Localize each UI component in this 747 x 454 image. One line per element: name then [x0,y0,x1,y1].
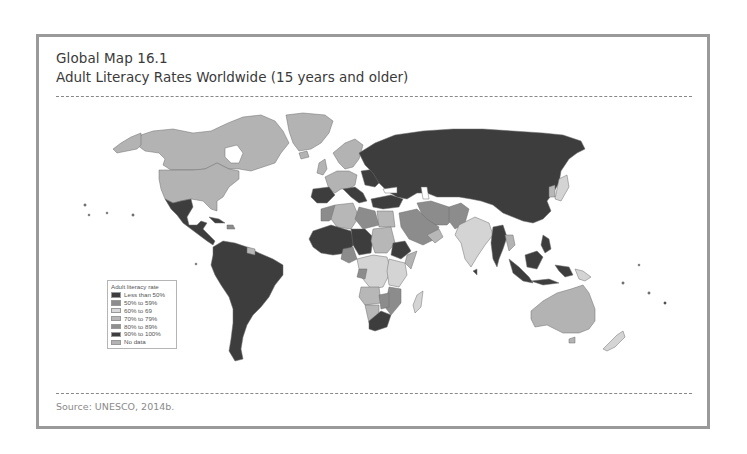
region-madagascar [413,291,423,313]
region-new-zealand [603,331,625,351]
region-india [455,217,493,267]
region-alaska [113,133,141,153]
region-east-africa [387,259,407,287]
region-angola [359,287,381,305]
legend-item: No data [111,338,173,346]
region-philippines [541,235,551,253]
region-nigeria [341,247,357,263]
region-canada [137,115,289,171]
legend-swatch-icon [111,292,121,298]
region-greenland [286,113,333,151]
legend-item: Less than 50% [111,291,173,299]
legend-swatch-icon [111,340,121,346]
region-mexico [165,199,215,245]
legend-item: 70% to 79% [111,315,173,323]
map-legend: Adult literacy rate Less than 50% 50% to… [107,280,177,349]
region-uk [317,159,327,175]
figure-frame: Global Map 16.1 Adult Literacy Rates Wor… [36,34,710,429]
region-algeria [331,203,359,229]
region-libya [355,207,379,229]
legend-item: 60% to 69 [111,307,173,315]
region-south-america [211,241,283,361]
legend-swatch-icon [111,332,121,338]
source-note: Source: UNESCO, 2014b. [56,401,174,412]
region-italy-balkans [343,187,367,203]
region-sudan [371,227,395,253]
world-map [39,37,707,426]
legend-item: 80% to 89% [111,323,173,331]
region-scandinavia [333,139,363,169]
legend-swatch-icon [111,316,121,322]
region-egypt [377,211,395,227]
region-russia-asia [359,129,585,223]
legend-title: Adult literacy rate [111,283,173,291]
source-divider [56,393,692,394]
legend-item: 50% to 59% [111,299,173,307]
legend-swatch-icon [111,300,121,306]
legend-swatch-icon [111,308,121,314]
legend-item: 90% to 100% [111,330,173,338]
region-australia [531,285,595,333]
legend-swatch-icon [111,324,121,330]
